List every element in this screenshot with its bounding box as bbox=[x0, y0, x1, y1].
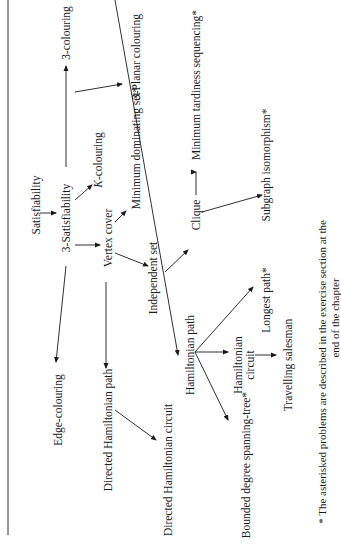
node-subgraph-isomorphism: Subgraph isomorphism* bbox=[260, 109, 272, 222]
node-vertex-cover: Vertex cover bbox=[102, 209, 114, 267]
node-directed-hamiltonian-path: Directed Hamiltonian path bbox=[102, 369, 114, 492]
footnote-line-2: end of the chapter bbox=[329, 278, 341, 357]
node-3-satisfiability: 3-Satisfiability bbox=[60, 184, 72, 252]
node-edge-colouring: Edge-colouring bbox=[52, 374, 64, 446]
node-minimum-dominating-set: Minimum dominating set* bbox=[130, 87, 142, 210]
node-3-colouring: 3-colouring bbox=[60, 6, 72, 60]
node-minimum-tardiness-sequencing: Minimum tardiness sequencing* bbox=[190, 10, 202, 160]
node-bounded-degree-spanning-tree: Bounded degree spanning-tree* bbox=[240, 392, 252, 538]
node-k-colouring: K-colouring bbox=[92, 132, 104, 188]
node-travelling-salesman: Travelling salesman bbox=[282, 319, 294, 412]
node-hamiltonian-path: Hamiltonian path bbox=[184, 315, 196, 395]
node-satisfiability: Satisfiability bbox=[30, 176, 42, 235]
node-clique: Clique bbox=[190, 200, 202, 231]
node-hamiltonian-circuit-line1: Hamiltonian bbox=[232, 336, 244, 394]
node-longest-path: Longest path* bbox=[260, 267, 272, 332]
node-hamiltonian-circuit-line2: circuit bbox=[244, 350, 256, 379]
node-directed-hamiltonian-circuit: Directed Hamiltonian circuit bbox=[162, 404, 174, 536]
footnote-line-1: * The asterisked problems are described … bbox=[316, 220, 328, 524]
node-independent-set: Independent set bbox=[147, 242, 159, 315]
